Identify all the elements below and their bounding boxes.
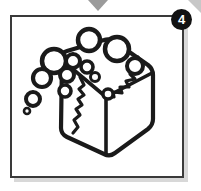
screenshot-root: 4 [0,0,201,191]
corner-accent-icon [188,0,201,13]
step-number-badge[interactable]: 4 [171,9,192,30]
down-triangle-marker-icon [88,0,108,11]
illustration-panel-frame [10,15,184,178]
